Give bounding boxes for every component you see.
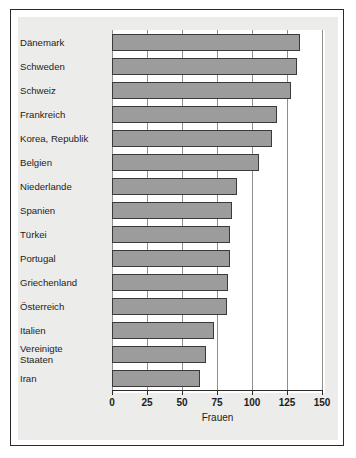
category-label: Dänemark bbox=[20, 34, 106, 51]
bar bbox=[112, 322, 214, 339]
category-label: Griechenland bbox=[20, 274, 106, 291]
bar bbox=[112, 178, 237, 195]
bar bbox=[112, 154, 259, 171]
category-label-text: Dänemark bbox=[20, 37, 64, 48]
category-label-text: Italien bbox=[20, 325, 46, 336]
category-label-text: Belgien bbox=[20, 157, 52, 168]
bar bbox=[112, 106, 277, 123]
category-label: Italien bbox=[20, 322, 106, 339]
x-tick-label: 100 bbox=[244, 397, 261, 408]
x-tick-mark-125 bbox=[287, 390, 288, 395]
category-label-text: Frankreich bbox=[20, 109, 65, 120]
x-tick-mark-25 bbox=[147, 390, 148, 395]
x-tick-mark-75 bbox=[217, 390, 218, 395]
x-tick-label: 25 bbox=[141, 397, 152, 408]
x-tick-mark-50 bbox=[182, 390, 183, 395]
category-label: Iran bbox=[20, 370, 106, 387]
bar bbox=[112, 82, 291, 99]
category-label-text: Portugal bbox=[20, 253, 56, 264]
category-label-text: Griechenland bbox=[20, 277, 77, 288]
x-tick-label: 50 bbox=[176, 397, 187, 408]
x-axis-title: Frauen bbox=[112, 412, 323, 423]
bar bbox=[112, 346, 206, 363]
x-tick-label: 0 bbox=[109, 397, 115, 408]
category-label-text: Niederlande bbox=[20, 181, 72, 192]
category-label-text: Österreich bbox=[20, 301, 64, 312]
category-label: Schweden bbox=[20, 58, 106, 75]
x-tick-mark-100 bbox=[252, 390, 253, 395]
category-label: Vereinigte Staaten bbox=[20, 346, 106, 363]
bar bbox=[112, 274, 228, 291]
bar bbox=[112, 370, 200, 387]
category-label: Korea, Republik bbox=[20, 130, 106, 147]
category-label-text: Iran bbox=[20, 373, 37, 384]
category-label: Österreich bbox=[20, 298, 106, 315]
category-label-text: Schweden bbox=[20, 61, 65, 72]
bar bbox=[112, 202, 232, 219]
x-tick-label: 75 bbox=[211, 397, 222, 408]
x-tick-label: 125 bbox=[279, 397, 296, 408]
bar bbox=[112, 226, 230, 243]
chart-figure: DänemarkSchwedenSchweizFrankreichKorea, … bbox=[0, 0, 356, 458]
category-label-text: Schweiz bbox=[20, 85, 56, 96]
bar bbox=[112, 298, 227, 315]
category-label: Schweiz bbox=[20, 82, 106, 99]
category-label: Frankreich bbox=[20, 106, 106, 123]
category-label-text: Spanien bbox=[20, 205, 55, 216]
bar bbox=[112, 34, 300, 51]
category-label: Portugal bbox=[20, 250, 106, 267]
bar bbox=[112, 250, 230, 267]
x-tick-mark-150 bbox=[322, 390, 323, 395]
bar bbox=[112, 58, 297, 75]
category-label-text: Korea, Republik bbox=[20, 133, 88, 144]
x-tick-mark-0 bbox=[112, 390, 113, 395]
bar-chart: DänemarkSchwedenSchweizFrankreichKorea, … bbox=[0, 0, 356, 458]
category-label: Spanien bbox=[20, 202, 106, 219]
category-label: Niederlande bbox=[20, 178, 106, 195]
x-tick-label: 150 bbox=[314, 397, 331, 408]
category-label: Belgien bbox=[20, 154, 106, 171]
category-label: Türkei bbox=[20, 226, 106, 243]
gridline-150 bbox=[322, 30, 323, 390]
bar bbox=[112, 130, 272, 147]
category-label-text: Vereinigte Staaten bbox=[20, 343, 63, 365]
category-label-text: Türkei bbox=[20, 229, 47, 240]
